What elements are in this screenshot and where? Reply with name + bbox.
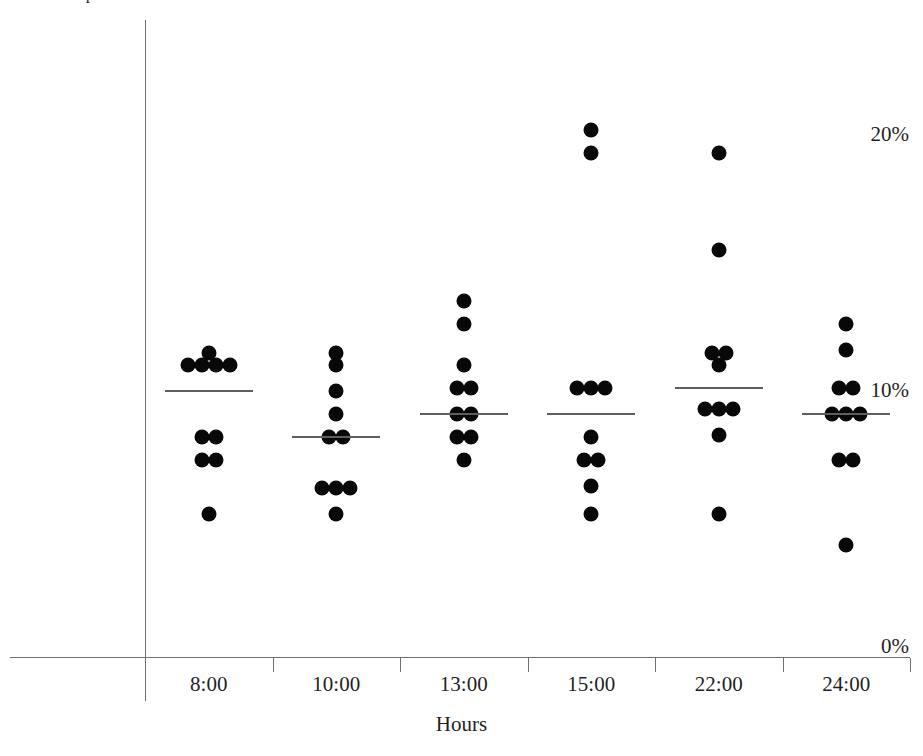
mean-line bbox=[802, 413, 890, 415]
data-point bbox=[194, 430, 209, 445]
data-point bbox=[208, 430, 223, 445]
data-point bbox=[839, 537, 854, 552]
cropped-title-fragment: Comparison of values bbox=[0, 0, 923, 8]
data-point bbox=[697, 401, 712, 416]
x-axis-tick bbox=[273, 658, 274, 672]
data-point bbox=[456, 453, 471, 468]
data-point bbox=[456, 294, 471, 309]
data-point bbox=[463, 381, 478, 396]
x-axis-tick bbox=[783, 658, 784, 672]
data-point bbox=[584, 478, 599, 493]
data-point bbox=[222, 358, 237, 373]
mean-line bbox=[292, 436, 380, 438]
data-point bbox=[839, 343, 854, 358]
data-point bbox=[208, 358, 223, 373]
dot-plot-chart: Comparison of values 0%10%20% 8:0010:001… bbox=[0, 0, 923, 756]
data-point bbox=[201, 506, 216, 521]
x-axis-tick bbox=[528, 658, 529, 672]
data-point bbox=[456, 358, 471, 373]
data-point bbox=[570, 381, 585, 396]
data-point bbox=[832, 381, 847, 396]
x-axis-tick bbox=[910, 658, 911, 672]
data-point bbox=[456, 317, 471, 332]
data-point bbox=[725, 401, 740, 416]
data-point bbox=[329, 358, 344, 373]
data-point bbox=[846, 381, 861, 396]
data-point bbox=[711, 506, 726, 521]
data-point bbox=[180, 358, 195, 373]
data-point bbox=[711, 358, 726, 373]
data-point bbox=[329, 407, 344, 422]
data-point bbox=[208, 453, 223, 468]
data-point bbox=[598, 381, 613, 396]
x-axis-title: Hours bbox=[0, 712, 923, 736]
x-tick-label: 22:00 bbox=[695, 672, 743, 696]
x-tick-label: 8:00 bbox=[190, 672, 227, 696]
data-point bbox=[194, 358, 209, 373]
data-point bbox=[449, 381, 464, 396]
data-point bbox=[711, 401, 726, 416]
cropped-title-text: Comparison of values bbox=[52, 0, 205, 3]
data-point bbox=[315, 481, 330, 496]
data-point bbox=[839, 317, 854, 332]
data-point bbox=[584, 381, 599, 396]
y-tick-label: 0% bbox=[793, 636, 923, 657]
data-point bbox=[329, 384, 344, 399]
data-point bbox=[591, 453, 606, 468]
mean-line bbox=[165, 390, 253, 392]
x-tick-label: 24:00 bbox=[822, 672, 870, 696]
data-point bbox=[194, 453, 209, 468]
data-point bbox=[711, 427, 726, 442]
x-tick-label: 10:00 bbox=[312, 672, 360, 696]
data-point bbox=[711, 145, 726, 160]
data-point bbox=[711, 243, 726, 258]
data-point bbox=[329, 506, 344, 521]
mean-line bbox=[420, 413, 508, 415]
x-tick-label: 15:00 bbox=[567, 672, 615, 696]
data-point bbox=[584, 145, 599, 160]
data-point bbox=[449, 430, 464, 445]
data-point bbox=[584, 506, 599, 521]
data-point bbox=[343, 481, 358, 496]
data-point bbox=[329, 481, 344, 496]
data-point bbox=[577, 453, 592, 468]
data-point bbox=[846, 453, 861, 468]
data-point bbox=[463, 430, 478, 445]
data-point bbox=[584, 430, 599, 445]
mean-line bbox=[675, 387, 763, 389]
data-point bbox=[832, 453, 847, 468]
x-axis-tick bbox=[145, 658, 146, 672]
mean-line bbox=[547, 413, 635, 415]
y-tick-label: 20% bbox=[793, 124, 923, 145]
y-axis-line bbox=[145, 20, 146, 701]
x-axis-tick bbox=[400, 658, 401, 672]
x-tick-label: 13:00 bbox=[440, 672, 488, 696]
x-axis-tick bbox=[655, 658, 656, 672]
data-point bbox=[584, 122, 599, 137]
